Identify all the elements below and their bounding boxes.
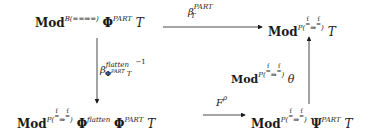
- mod-text: Mod: [17, 117, 47, 130]
- node-bottom-right: ModP(f=⇒f=) ΨPART T: [251, 108, 352, 130]
- phi-sub-superscript: PART: [111, 68, 125, 74]
- mod-text: Mod: [268, 25, 298, 39]
- psi-superscript: PART: [322, 116, 341, 124]
- phi-symbol: Φ: [114, 117, 124, 130]
- edge-label-right: ModP(f=⇒f=) θ: [231, 63, 294, 87]
- phi-superscript: PART: [125, 116, 144, 124]
- theta-symbol: θ: [288, 73, 295, 86]
- sup-prefix: P(: [281, 116, 288, 124]
- node-top-right: ModP(f=⇒f=) T: [268, 16, 336, 39]
- sup-prefix: P(: [258, 71, 265, 79]
- psi-symbol: Ψ: [311, 117, 322, 130]
- mod-text: Mod: [35, 16, 65, 30]
- beta-superscript: PART: [194, 3, 213, 11]
- mod-text: Mod: [231, 73, 258, 86]
- edge-label-bottom: Fρ: [216, 97, 227, 109]
- functor-superscript: ρ: [223, 94, 227, 102]
- sup-prefix: P(: [47, 116, 54, 124]
- tail-symbol: T: [328, 25, 336, 39]
- beta-subscript: T: [191, 12, 196, 20]
- sup-suffix: ): [282, 71, 285, 79]
- inverse-superscript: −1: [135, 58, 145, 66]
- mod-text: Mod: [251, 117, 281, 130]
- functor-symbol: F: [216, 97, 223, 108]
- mod-superscript: B(==⇒=): [65, 15, 99, 23]
- phi-symbol: Φ: [77, 117, 87, 130]
- edge-label-top: βPARTT: [188, 6, 195, 18]
- edge-label-left: βflattenΦPART T−1: [100, 62, 146, 76]
- sup-suffix: ): [304, 116, 307, 124]
- phi-symbol: Φ: [103, 16, 113, 30]
- node-bottom-left: ModP(f=⇒f=) Φflatten ΦPART T: [17, 108, 155, 130]
- sup-prefix: P(: [298, 24, 305, 32]
- phi-superscript: PART: [113, 15, 132, 23]
- phi-superscript: flatten: [87, 116, 110, 124]
- tail-symbol: T: [147, 117, 155, 130]
- sub-tail: T: [127, 70, 132, 78]
- node-top-left: ModB(==⇒=) ΦPART T: [35, 16, 144, 30]
- tail-symbol: T: [136, 16, 144, 30]
- sup-suffix: ): [321, 24, 324, 32]
- sup-suffix: ): [70, 116, 73, 124]
- tail-symbol: T: [344, 117, 352, 130]
